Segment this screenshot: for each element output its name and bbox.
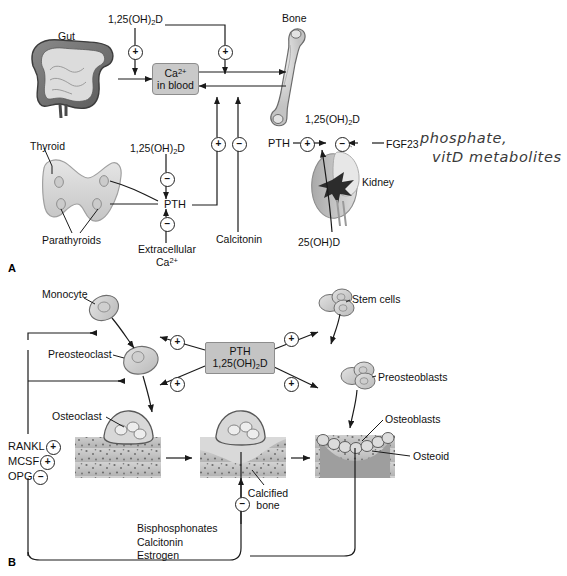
kidney-illustration xyxy=(312,146,359,226)
label-pth-kidney: PTH xyxy=(268,137,290,149)
label-parathyroids: Parathyroids xyxy=(42,234,101,246)
handwritten-annotation-line1: phosphate, xyxy=(420,130,507,147)
label-calcitonin: Calcitonin xyxy=(216,233,262,245)
factor-opg: OPG− xyxy=(8,470,48,482)
arrow-preosteoclast-to-osteoclast xyxy=(143,376,152,412)
sign-rankl: + xyxy=(46,440,61,455)
arrow-monocyte-to-preosteoclast xyxy=(112,318,134,348)
label-stem-cells: Stem cells xyxy=(352,293,400,305)
handwritten-annotation-line2: vitD metabolites xyxy=(432,149,562,166)
femur-bone-illustration xyxy=(271,29,305,126)
panel-a-letter: A xyxy=(8,262,16,274)
label-preosteoclast: Preosteoclast xyxy=(48,348,112,360)
stem-cells-cluster xyxy=(319,289,354,316)
factors-list: RANKL+ MCSF+ OPG− xyxy=(8,440,61,485)
label-vitd-gut: 1,25(OH)2D xyxy=(108,13,163,29)
label-osteoblasts: Osteoblasts xyxy=(385,413,440,425)
line-rankl-feedback-top-corner xyxy=(28,333,97,340)
label-pth-thyroid: PTH xyxy=(164,198,186,210)
ca-in-blood-box: Ca2+ in blood xyxy=(152,63,199,95)
sign-minus-fgf23-inhibits-kidney: − xyxy=(335,137,350,152)
bone-block-2 xyxy=(200,411,286,478)
pth-box-line2: 1,25(OH)2D xyxy=(213,357,268,371)
pth-vitd-center-box: PTH 1,25(OH)2D xyxy=(205,342,275,374)
arrow-preosteoblasts-to-osteoblasts xyxy=(350,390,357,428)
sign-opg: − xyxy=(33,470,48,485)
sign-plus-gut-vitd: + xyxy=(128,45,143,60)
label-vitd-thyroid: 1,25(OH)2D xyxy=(130,142,185,158)
inhibitor-estrogen: Estrogen xyxy=(137,549,179,561)
label-preosteoblasts: Preosteoblasts xyxy=(378,371,447,383)
arrow-stemcells-to-preosteoblasts xyxy=(331,314,340,344)
label-monocyte: Monocyte xyxy=(42,288,88,300)
sign-minus-vitd-inhibits-pth: − xyxy=(160,172,175,187)
label-bone: Bone xyxy=(282,12,307,24)
label-vitd-kidney: 1,25(OH)2D xyxy=(305,113,360,129)
pth-box-line1: PTH xyxy=(230,345,251,357)
sign-minus-calcitonin-to-ca: − xyxy=(232,137,247,152)
line-pth-branch xyxy=(192,150,217,205)
label-thyroid: Thyroid xyxy=(30,140,65,152)
label-gut: Gut xyxy=(58,30,75,42)
label-osteoclast: Osteoclast xyxy=(52,410,102,422)
ca-box-line2: in blood xyxy=(157,79,194,91)
label-kidney: Kidney xyxy=(362,176,394,188)
label-fgf23: FGF23 xyxy=(386,138,419,150)
figure-root: A 1,25(OH)2D Gut Bone Ca2+ in blood + + … xyxy=(0,0,567,576)
thyroid-parathyroid-illustration xyxy=(43,160,122,233)
sign-minus-inhibitors: − xyxy=(235,497,250,512)
inhibitor-calcitonin: Calcitonin xyxy=(137,536,183,548)
sign-plus-pth-to-osteoclast: + xyxy=(170,377,185,392)
line-vitd-to-bone xyxy=(165,25,225,45)
inhibitor-bisphosphonates: Bisphosphonates xyxy=(137,522,218,534)
label-osteoid: Osteoid xyxy=(413,450,449,462)
factor-mcsf: MCSF+ xyxy=(8,455,55,467)
monocyte-cell xyxy=(85,291,122,325)
sign-minus-ca-inhibits-pth: − xyxy=(160,217,175,232)
gut-illustration xyxy=(32,40,113,118)
ca-box-line1: Ca2+ xyxy=(165,67,187,79)
inhibitors-list: Bisphosphonates Calcitonin Estrogen xyxy=(137,522,218,563)
sign-plus-bone-vitd: + xyxy=(218,45,233,60)
sign-plus-pth-to-ca: + xyxy=(211,137,226,152)
factor-rankl: RANKL+ xyxy=(8,440,61,452)
sign-plus-pth-to-stemcells: + xyxy=(284,332,299,347)
sign-mcsf: + xyxy=(40,455,55,470)
preosteoblasts-cluster xyxy=(341,362,375,389)
panel-b-letter: B xyxy=(8,556,16,568)
label-25ohd: 25(OH)D xyxy=(298,236,340,248)
sign-plus-pth-to-monocyte: + xyxy=(170,335,185,350)
sign-plus-pth-stimulates-kidney: + xyxy=(300,137,315,152)
label-extracellular-ca: Extracellular Ca2+ xyxy=(128,243,206,268)
sign-plus-pth-to-osteoblast: + xyxy=(284,377,299,392)
preosteoclast-cell xyxy=(124,346,158,374)
